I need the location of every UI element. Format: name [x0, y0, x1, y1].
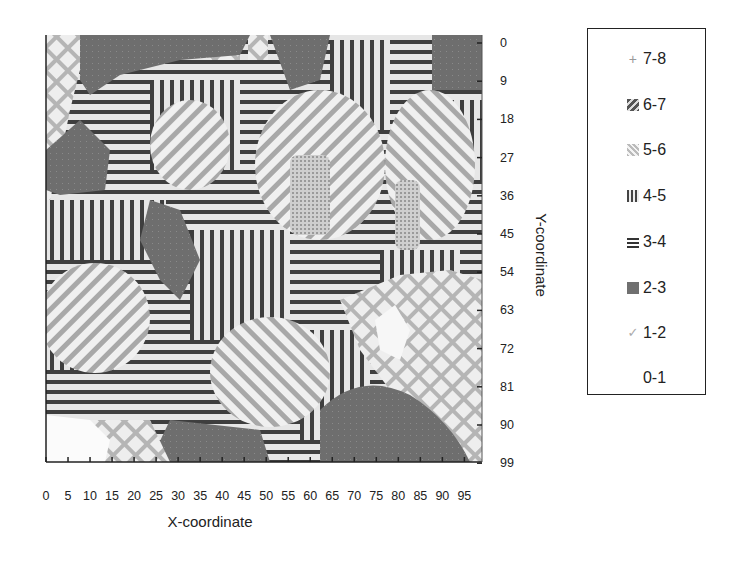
x-tick-label: 95 [457, 489, 471, 503]
y-axis-title: Y-coordinate [533, 213, 550, 297]
diagonal-light-swatch-icon [627, 144, 639, 156]
x-tick-label: 20 [127, 489, 141, 503]
legend-item: 5-6 [588, 137, 705, 163]
y-axis: 0918273645546372819099 [477, 36, 514, 470]
x-tick-label: 5 [65, 489, 72, 503]
x-axis-title: X-coordinate [167, 513, 252, 530]
x-tick-label: 40 [215, 489, 229, 503]
x-tick-label: 75 [369, 489, 383, 503]
x-tick-label: 10 [83, 489, 97, 503]
horizontal-stripes-swatch-icon [627, 236, 639, 248]
y-tick-label: 27 [500, 151, 514, 165]
legend-item: 2-3 [588, 275, 705, 301]
legend-item: 0-1 [588, 365, 705, 391]
x-tick-label: 70 [347, 489, 361, 503]
x-tick-label: 80 [391, 489, 405, 503]
y-tick-label: 18 [500, 112, 514, 126]
vertical-stripes-swatch-icon [627, 190, 639, 202]
x-tick-label: 30 [171, 489, 185, 503]
legend: + 7-8 6-7 5-6 4-5 3-4 2-3 ✓ 1-2 0-1 [587, 28, 706, 395]
x-tick-label: 90 [435, 489, 449, 503]
x-tick-label: 50 [259, 489, 273, 503]
legend-item: ✓ 1-2 [588, 320, 705, 346]
x-tick-label: 0 [43, 489, 50, 503]
y-tick-label: 54 [500, 265, 514, 279]
y-tick-label: 72 [500, 342, 514, 356]
y-tick-label: 63 [500, 303, 514, 317]
legend-item: 4-5 [588, 183, 705, 209]
x-tick-label: 65 [325, 489, 339, 503]
plus-swatch-icon: + [627, 53, 639, 65]
y-tick-label: 90 [500, 418, 514, 432]
y-tick-label: 0 [500, 36, 507, 50]
y-tick-label: 9 [500, 74, 507, 88]
y-tick-label: 45 [500, 227, 514, 241]
legend-item: 3-4 [588, 229, 705, 255]
x-tick-label: 25 [149, 489, 163, 503]
y-tick-label: 99 [500, 456, 514, 470]
x-tick-label: 85 [413, 489, 427, 503]
y-tick-label: 36 [500, 189, 514, 203]
x-axis: 05101520253035404550556065707580859095 [43, 457, 472, 503]
solid-gray-swatch-icon [627, 282, 639, 294]
white-swatch-icon [627, 372, 639, 384]
crosshatch-swatch-icon: ✓ [627, 327, 639, 339]
y-tick-label: 81 [500, 380, 514, 394]
x-tick-label: 15 [105, 489, 119, 503]
x-tick-label: 55 [281, 489, 295, 503]
x-tick-label: 45 [237, 489, 251, 503]
x-tick-label: 60 [303, 489, 317, 503]
plot-area [40, 35, 482, 462]
diagonal-heavy-swatch-icon [627, 99, 639, 111]
legend-item: + 7-8 [588, 46, 705, 72]
x-tick-label: 35 [193, 489, 207, 503]
legend-item: 6-7 [588, 92, 705, 118]
